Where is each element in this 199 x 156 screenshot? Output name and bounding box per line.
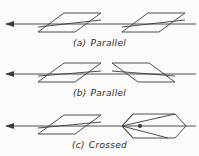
internal-ray-right-b	[112, 71, 175, 76]
caption-a-tag: (a)	[73, 38, 86, 48]
internal-ray-left-a	[38, 20, 101, 27]
prism-right-a	[122, 13, 185, 32]
ray-arrowhead-icon-c	[5, 123, 14, 129]
prism-right-b	[112, 63, 175, 82]
caption-a: (a)Parallel	[0, 38, 199, 48]
crossed-ray-upper-c	[122, 114, 175, 126]
caption-c-tag: (c)	[72, 140, 85, 150]
caption-b-word: Parallel	[91, 88, 127, 98]
internal-ray-right-a	[122, 20, 185, 27]
crossed-ray-lower-c	[122, 126, 168, 138]
internal-ray-left-c	[38, 122, 101, 128]
caption-b: (b)Parallel	[0, 88, 199, 98]
ray-arrowhead-icon-a	[5, 21, 14, 27]
ray-arrowhead-icon-b	[5, 71, 14, 77]
caption-c: (c)Crossed	[0, 140, 199, 150]
prism-left-a	[38, 13, 101, 32]
focal-point-dot-c	[138, 124, 142, 128]
caption-b-tag: (b)	[73, 88, 87, 98]
prism-left-b	[38, 63, 101, 82]
figure-ray-diagrams: (a)Parallel (b)Parallel	[0, 0, 199, 156]
caption-a-word: Parallel	[90, 38, 126, 48]
caption-c-word: Crossed	[89, 140, 127, 150]
internal-ray-left-b	[38, 71, 101, 76]
prism-left-c	[38, 115, 101, 134]
